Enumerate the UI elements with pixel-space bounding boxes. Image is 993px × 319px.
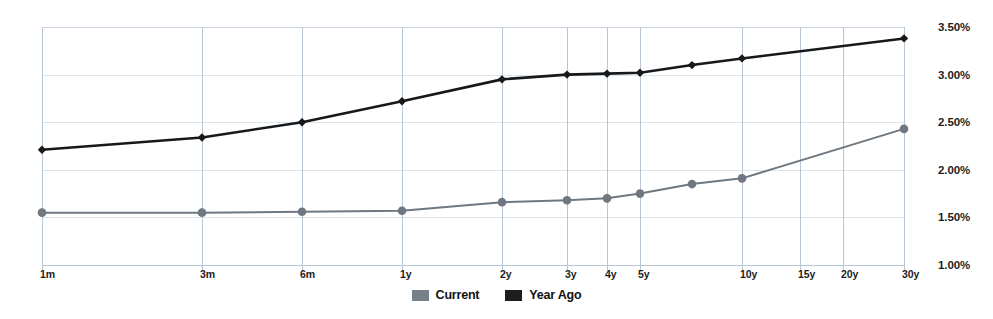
legend-swatch-current [412,290,429,301]
marker-year-ago-2y[interactable] [498,75,506,83]
x-tick-label-4y: 4y [605,268,616,280]
legend-swatch-year-ago [505,290,522,301]
y-tick-label-2.00: 2.00% [938,164,970,176]
chart-legend: CurrentYear Ago [0,288,993,302]
y-tick-label-2.50: 2.50% [938,116,970,128]
marker-current-7y[interactable] [688,180,697,189]
marker-current-10y[interactable] [738,174,747,183]
marker-year-ago-3y[interactable] [563,70,571,78]
series-line-year-ago [42,38,904,149]
marker-current-3m[interactable] [198,208,207,217]
marker-current-5y[interactable] [636,189,645,198]
y-tick-label-1.50: 1.50% [938,211,970,223]
x-tick-label-10y: 10y [740,268,757,280]
marker-year-ago-4y[interactable] [603,69,611,77]
legend-entry-year-ago[interactable]: Year Ago [505,288,581,302]
marker-year-ago-6m[interactable] [298,118,306,126]
marker-current-3y[interactable] [563,196,572,205]
x-tick-label-3y: 3y [565,268,576,280]
x-tick-label-1m: 1m [40,268,55,280]
x-tick-label-30y: 30y [902,268,919,280]
x-tick-label-20y: 20y [841,268,858,280]
x-tick-label-1y: 1y [400,268,411,280]
marker-year-ago-5y[interactable] [636,68,644,76]
series-line-current [42,129,904,213]
legend-label-current: Current [436,288,480,302]
legend-entry-current[interactable]: Current [412,288,480,302]
marker-year-ago-3m[interactable] [198,133,206,141]
marker-year-ago-7y[interactable] [688,61,696,69]
y-tick-label-3.00: 3.00% [938,69,970,81]
gridline-x-30y [904,27,905,265]
x-tick-label-15y: 15y [798,268,815,280]
marker-year-ago-1m[interactable] [38,146,46,154]
marker-current-2y[interactable] [498,198,507,207]
y-tick-label-1.00: 1.00% [938,259,970,271]
series-plot [42,27,904,265]
legend-label-year-ago: Year Ago [529,288,581,302]
x-tick-label-3m: 3m [200,268,215,280]
marker-current-30y[interactable] [900,125,909,134]
marker-current-6m[interactable] [298,207,307,216]
marker-current-1y[interactable] [398,206,407,215]
marker-year-ago-10y[interactable] [738,54,746,62]
marker-year-ago-30y[interactable] [900,34,908,42]
x-tick-label-2y: 2y [500,268,511,280]
x-tick-label-5y: 5y [638,268,649,280]
x-tick-label-6m: 6m [300,268,315,280]
y-tick-label-3.50: 3.50% [938,21,970,33]
marker-year-ago-1y[interactable] [398,97,406,105]
x-axis-line [42,265,904,266]
marker-current-1m[interactable] [38,208,47,217]
marker-current-4y[interactable] [603,194,612,203]
yield-curve-chart: 3.50%3.00%2.50%2.00%1.50%1.00% 1m3m6m1y2… [0,0,993,319]
plot-area [42,27,904,265]
